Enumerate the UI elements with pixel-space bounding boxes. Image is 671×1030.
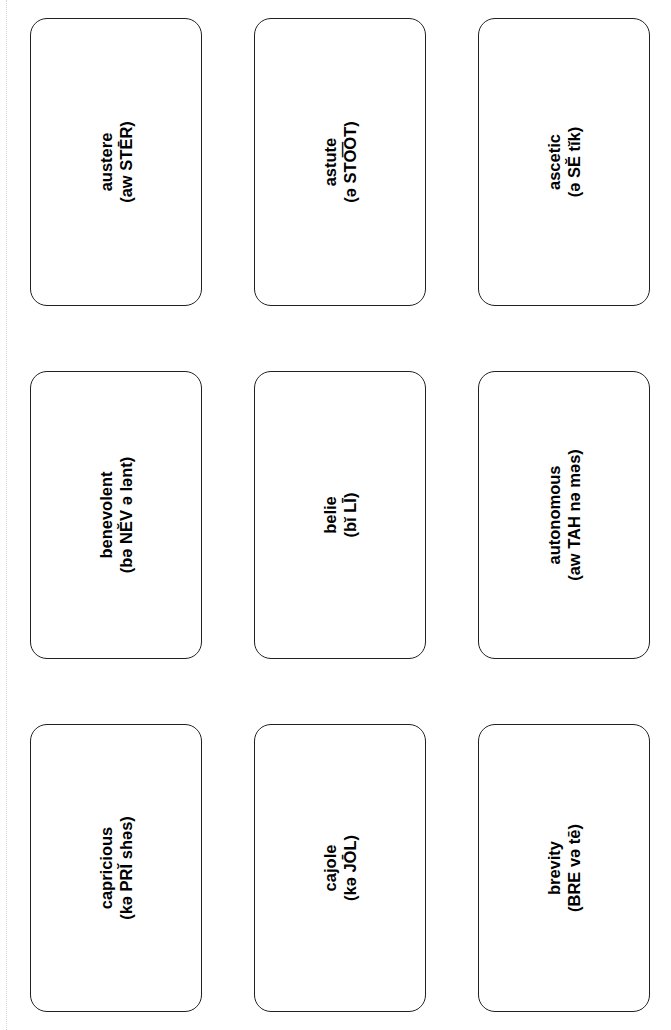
flashcard[interactable]: autonomous (aw TAH nə məs) [478, 371, 650, 659]
flashcard-term: belie [319, 377, 339, 653]
flashcard-pronunciation: (BRE və tē) [564, 730, 584, 1006]
flashcard-text: capricious (kə PRĬ shəs) [95, 730, 135, 1006]
flashcard-pronunciation: (aw STĒR) [116, 24, 136, 300]
flashcard[interactable]: capricious (kə PRĬ shəs) [30, 724, 202, 1012]
flashcard-term: astute [319, 24, 339, 300]
flashcard-text: cajole (kə JŌL) [319, 730, 359, 1006]
flashcard-term: austere [95, 24, 115, 300]
flashcard[interactable]: benevolent (bə NĔV ə lənt) [30, 371, 202, 659]
flashcard-term: benevolent [95, 377, 115, 653]
flashcard-pronunciation: (kə PRĬ shəs) [116, 730, 136, 1006]
flashcard-pronunciation: (bĭ LĪ) [340, 377, 360, 653]
flashcard-text: austere (aw STĒR) [95, 24, 135, 300]
flashcard-term: autonomous [543, 377, 563, 653]
flashcard-text: belie (bĭ LĪ) [319, 377, 359, 653]
flashcard-text: ascetic (ə SĔ tĭk) [543, 24, 583, 300]
flashcard[interactable]: astute (ə STO͞OT) [254, 18, 426, 306]
flashcard[interactable]: cajole (kə JŌL) [254, 724, 426, 1012]
flashcard-pronunciation: (ə STO͞OT) [340, 24, 360, 300]
flashcard-text: autonomous (aw TAH nə məs) [543, 377, 583, 653]
flashcard[interactable]: belie (bĭ LĪ) [254, 371, 426, 659]
flashcard-sheet: austere (aw STĒR) astute (ə STO͞OT) asce… [0, 0, 671, 1030]
flashcard[interactable]: austere (aw STĒR) [30, 18, 202, 306]
flashcard-term: capricious [95, 730, 115, 1006]
flashcard-text: benevolent (bə NĔV ə lənt) [95, 377, 135, 653]
flashcard-term: cajole [319, 730, 339, 1006]
flashcard-pronunciation: (bə NĔV ə lənt) [116, 377, 136, 653]
flashcard[interactable]: brevity (BRE və tē) [478, 724, 650, 1012]
flashcard[interactable]: ascetic (ə SĔ tĭk) [478, 18, 650, 306]
flashcard-pronunciation: (kə JŌL) [340, 730, 360, 1006]
flashcard-term: ascetic [543, 24, 563, 300]
flashcard-text: brevity (BRE və tē) [543, 730, 583, 1006]
flashcard-text: astute (ə STO͞OT) [319, 24, 359, 300]
flashcard-pronunciation: (ə SĔ tĭk) [564, 24, 584, 300]
flashcard-pronunciation: (aw TAH nə məs) [564, 377, 584, 653]
flashcard-term: brevity [543, 730, 563, 1006]
